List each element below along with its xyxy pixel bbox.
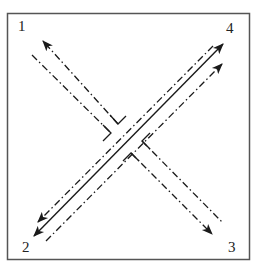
dashdot-line-upper-1-3-part-a xyxy=(43,41,118,124)
crossing-paths-diagram: 1 4 2 3 xyxy=(0,0,254,266)
solid-line-2-4 xyxy=(34,44,223,236)
diagram-frame xyxy=(8,14,250,260)
dashdot-line-upper-2-4 xyxy=(38,46,213,222)
label-point-4: 4 xyxy=(226,20,234,36)
label-point-2: 2 xyxy=(22,239,30,255)
label-point-1: 1 xyxy=(18,18,26,34)
dashdot-line-upper-1-3-vbend-a xyxy=(110,115,126,124)
label-point-3: 3 xyxy=(228,239,236,255)
dashdot-line-lower-1-3-vbend-a xyxy=(103,125,111,141)
dashdot-line-lower-1-3-part-b xyxy=(131,153,212,234)
dashdot-line-lower-1-3-vbend-b xyxy=(123,153,139,161)
dashdot-line-upper-1-3-part-b xyxy=(142,141,222,222)
dashdot-line-lower-2-4 xyxy=(46,64,222,241)
dashdot-line-lower-1-3-part-a xyxy=(32,55,111,133)
